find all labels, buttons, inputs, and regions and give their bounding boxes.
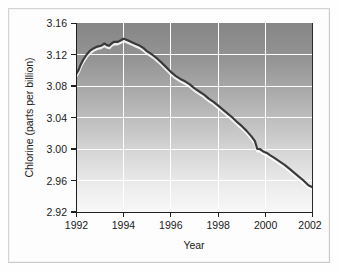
y-tick-label: 2.96 — [47, 175, 68, 187]
y-tick-label: 3.08 — [47, 80, 68, 92]
y-tick-label: 3.16 — [47, 17, 68, 29]
x-axis-title: Year — [183, 239, 205, 251]
x-tick-label: 1996 — [159, 219, 183, 231]
x-tick-label: 1992 — [65, 219, 89, 231]
figure-container: 3.16 3.12 3.08 3.04 3.00 2.96 2.92 1992 … — [0, 0, 339, 273]
y-axis-title: Chlorine (parts per billion) — [23, 57, 35, 177]
y-axis-ticks — [71, 24, 76, 213]
x-tick-label: 2002 — [298, 219, 322, 231]
y-axis-tick-labels: 3.16 3.12 3.08 3.04 3.00 2.96 2.92 — [47, 17, 68, 218]
y-tick-label: 3.00 — [47, 143, 68, 155]
chlorine-line-chart: 3.16 3.12 3.08 3.04 3.00 2.96 2.92 1992 … — [0, 0, 339, 273]
x-tick-label: 1994 — [112, 219, 136, 231]
y-tick-label: 3.04 — [47, 112, 68, 124]
y-tick-label: 2.92 — [47, 206, 68, 218]
x-tick-label: 2000 — [254, 219, 278, 231]
y-tick-label: 3.12 — [47, 49, 68, 61]
x-tick-label: 1998 — [207, 219, 231, 231]
